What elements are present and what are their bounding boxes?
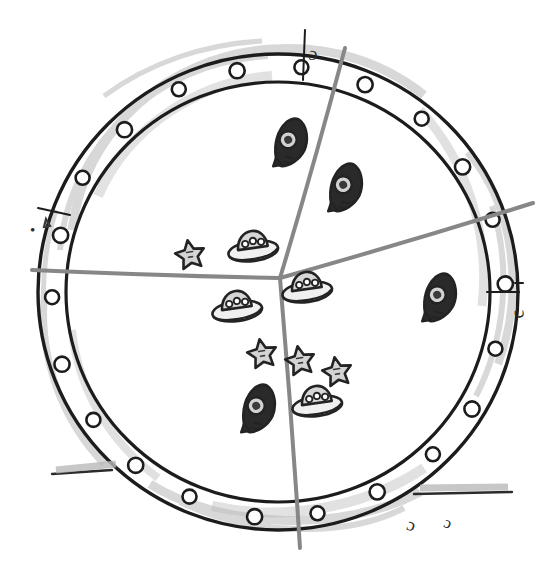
ufo-icon [210, 288, 264, 325]
rocket-icon [408, 271, 464, 326]
star-icon [173, 238, 206, 270]
label-bottom-right-2: c [441, 517, 453, 535]
ring-rivet [183, 490, 197, 504]
ring-rivet [358, 77, 373, 92]
label-bottom-right-1: c [403, 518, 417, 540]
ring-rivet [230, 63, 245, 78]
ring-rivet [54, 357, 69, 372]
ring-rivet [464, 401, 479, 416]
rocket-icon [314, 161, 370, 216]
ground-strokes [52, 464, 512, 494]
star-icon [320, 355, 353, 387]
ring-rivet [86, 413, 100, 427]
sketch-figure-canvas: c c • c c [0, 0, 556, 580]
ring-rivet [117, 122, 132, 137]
ring-rivet [172, 82, 186, 96]
ring-rivet [53, 228, 68, 243]
ring-rivet [415, 112, 429, 126]
rocket-icon [227, 382, 283, 437]
ring-rivet [128, 458, 143, 473]
ring-rivet [455, 159, 470, 174]
divider-left [32, 270, 280, 278]
ufo-icon [290, 383, 344, 420]
ring-rivet [45, 290, 59, 304]
star-icon [245, 337, 278, 369]
pie-chart-svg: c c • c c [0, 0, 556, 580]
ring-rivet [426, 447, 440, 461]
ring-rivet [488, 342, 502, 356]
ufo-icon [226, 228, 280, 265]
divider-right [280, 203, 533, 278]
ring-rivet [294, 60, 308, 74]
ring-rivet [370, 484, 385, 499]
ring-rivet [247, 509, 262, 524]
ring-rivet [311, 506, 325, 520]
ring-rivet [498, 276, 513, 291]
rocket-icon [259, 116, 315, 171]
ring-rivet [76, 171, 90, 185]
label-left: • [30, 222, 35, 238]
